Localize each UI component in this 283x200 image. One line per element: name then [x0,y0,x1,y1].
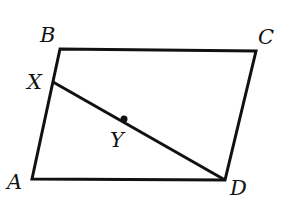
label-C: C [258,25,274,49]
geometry-diagram: B C X Y A D [0,0,283,200]
label-B: B [39,23,55,47]
point-Y-dot [121,116,128,123]
label-Y: Y [110,128,126,152]
label-X: X [25,70,43,94]
parallelogram-ABCD [32,49,256,180]
segment-XD [53,82,225,180]
label-D: D [229,176,247,200]
label-A: A [5,170,22,194]
